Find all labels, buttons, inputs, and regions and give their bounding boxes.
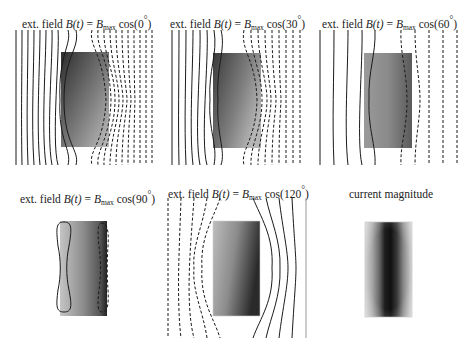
conductor-plate bbox=[213, 53, 261, 148]
dashed-field-lines bbox=[168, 198, 220, 338]
field-plot bbox=[156, 176, 312, 352]
panel-cos-120: ext. field B(t) = Bmax cos(120°) bbox=[156, 176, 312, 352]
current-magnitude-plot bbox=[312, 176, 467, 352]
field-plot bbox=[312, 0, 467, 176]
panel-cos-90: ext. field B(t) = Bmax cos(90°) bbox=[0, 176, 156, 352]
panel-cos-0: ext. field B(t) = Bmax cos(0°) bbox=[0, 0, 156, 176]
panel-cos-60: ext. field B(t) = Bmax cos(60°) bbox=[312, 0, 467, 176]
field-plot bbox=[156, 0, 312, 176]
field-plot bbox=[0, 0, 156, 176]
panel-current-magnitude: current magnitude bbox=[312, 176, 467, 352]
conductor-plate bbox=[213, 221, 260, 316]
panel-cos-30: ext. field B(t) = Bmax cos(30°) bbox=[156, 0, 312, 176]
field-plot bbox=[0, 176, 156, 352]
solid-field-lines bbox=[253, 198, 306, 338]
